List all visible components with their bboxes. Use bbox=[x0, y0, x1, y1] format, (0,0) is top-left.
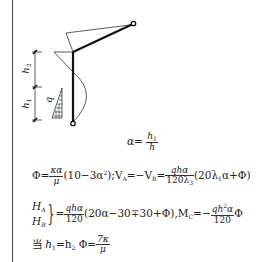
label-h1: h1 bbox=[21, 98, 32, 108]
formula-line-2: HAHB}=qhα120(20α−30∓30+Φ),MC=−qh2α120Φ bbox=[32, 199, 243, 229]
formula-line-3: 当 h1=h2 Φ=7κμ bbox=[32, 235, 110, 255]
frame-diagram bbox=[0, 0, 272, 135]
label-q: q bbox=[44, 97, 54, 103]
label-h2: h2 bbox=[21, 63, 32, 73]
pin-support-top-icon bbox=[131, 21, 135, 25]
moment-triangle bbox=[54, 52, 73, 72]
formula-line-1: Φ=καμ(10−3α2);VA=−VB=qhα120λ3(20λ1α+Φ) bbox=[32, 166, 251, 187]
formula-alpha: α= h1h bbox=[127, 132, 158, 153]
moment-line-side bbox=[66, 33, 73, 52]
moment-curve bbox=[73, 72, 87, 122]
pin-support-bottom-icon bbox=[71, 121, 75, 125]
